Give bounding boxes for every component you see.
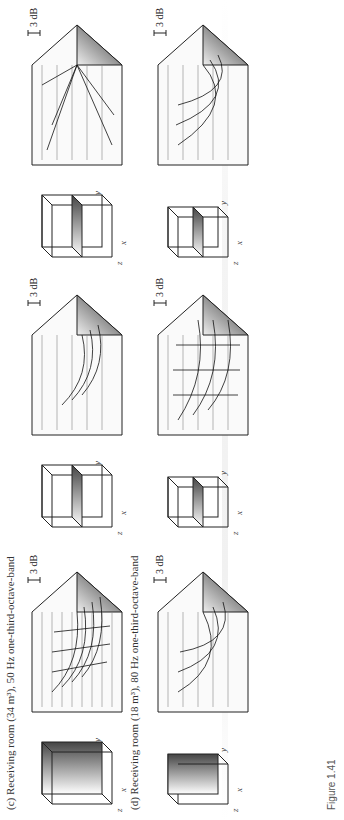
axis-z: z <box>114 531 124 535</box>
axis-y: y <box>218 201 228 205</box>
axis-y: y <box>92 738 102 742</box>
panel-d3: 3 dB z x y <box>148 5 268 265</box>
axis-y: y <box>92 461 102 465</box>
panel-c1: 3 dB z x y <box>22 562 132 812</box>
axis-z: z <box>114 261 124 265</box>
axis-z: z <box>114 808 124 812</box>
panel-c2: 3 dB z x y <box>22 285 132 535</box>
axis-y: y <box>218 471 228 475</box>
axis-z: z <box>230 261 240 265</box>
room-diagram <box>22 562 132 812</box>
caption-c: (c) Receiving room (34 m³), 50 Hz one-th… <box>4 556 16 810</box>
scale-label: 3 dB <box>28 8 39 27</box>
axis-x: x <box>118 511 128 515</box>
room-diagram <box>148 5 268 265</box>
room-diagram <box>148 562 268 812</box>
scale-label: 3 dB <box>154 555 165 574</box>
axis-x: x <box>118 788 128 792</box>
axis-x: x <box>234 241 244 245</box>
room-diagram <box>148 285 268 535</box>
scale-label: 3 dB <box>28 555 39 574</box>
scale-label: 3 dB <box>28 278 39 297</box>
panel-d1: 3 dB z x y <box>148 562 268 812</box>
axis-y: y <box>218 748 228 752</box>
figure-label: Figure 1.41 <box>326 759 337 810</box>
axis-y: y <box>92 191 102 195</box>
room-diagram <box>22 285 132 535</box>
caption-d: (d) Receiving room (18 m³), 80 Hz one-th… <box>128 556 140 810</box>
figure-canvas: (c) Receiving room (34 m³), 50 Hz one-th… <box>0 0 344 820</box>
axis-z: z <box>230 531 240 535</box>
scale-label: 3 dB <box>154 8 165 27</box>
axis-x: x <box>118 241 128 245</box>
scale-label: 3 dB <box>154 278 165 297</box>
panel-c3: 3 dB z x y <box>22 5 132 265</box>
axis-x: x <box>234 511 244 515</box>
panel-d2: 3 dB z x y <box>148 285 268 535</box>
axis-x: x <box>234 788 244 792</box>
room-diagram <box>22 5 132 265</box>
axis-z: z <box>230 808 240 812</box>
